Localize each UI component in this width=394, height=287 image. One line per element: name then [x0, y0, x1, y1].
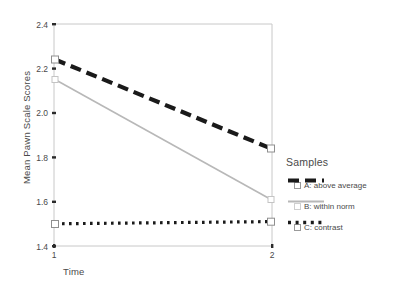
y-tick-label-1-4: 1.4: [26, 242, 48, 252]
series-line-b-within-norm: [52, 77, 274, 203]
plot-frame: [54, 24, 272, 246]
x-tick-label-1: 1: [47, 250, 61, 260]
legend-title: Samples: [286, 156, 394, 168]
legend-swatch-dotted: [288, 213, 394, 222]
x-tick-label-2: 2: [265, 250, 279, 260]
y-tick-label-2-4: 2.4: [26, 20, 48, 30]
legend-swatch-dashed: [288, 171, 394, 180]
chart-container: 2.4 2.2 2.0 1.8 1.6 1.4 1 2 Mean Pawn Sc…: [0, 0, 394, 287]
legend-swatch-b-icon: [288, 197, 324, 206]
series-line-a-above-average: [52, 56, 275, 152]
legend-entry-a: A: above average: [286, 171, 394, 190]
y-axis-title: Mean Pawn Scale Scores: [21, 48, 32, 208]
x-axis-title: Time: [63, 266, 85, 277]
legend-swatch-solid: [288, 192, 394, 201]
legend: Samples A: above average B: within norm: [286, 156, 394, 234]
legend-entry-c: C: contrast: [286, 213, 394, 232]
line-chart-plot: [0, 0, 394, 287]
legend-swatch-a-icon: [288, 176, 324, 185]
legend-swatch-c-icon: [288, 218, 324, 227]
legend-entry-b: B: within norm: [286, 192, 394, 211]
series-line-c-contrast: [52, 218, 275, 227]
